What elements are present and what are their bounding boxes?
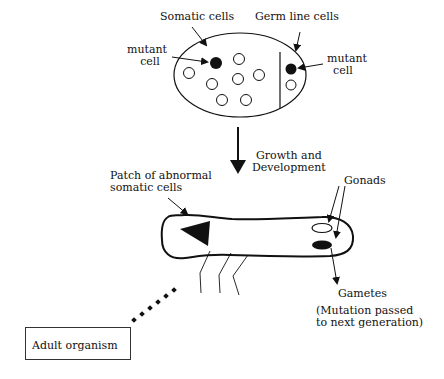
gametes-label: Gametes [338, 288, 387, 300]
abnormal-patch [180, 221, 210, 246]
embryo-ellipse [174, 33, 306, 117]
mutant-cell-left-label: mutant cell [127, 44, 167, 68]
gonads-arrow-1 [329, 186, 339, 221]
gonad-open [312, 224, 332, 233]
mutation-note-label: (Mutation passed to next generation) [316, 305, 423, 329]
germ-line-cells-label: Germ line cells [255, 11, 339, 23]
adult-organism-box: Adult organism [25, 327, 131, 360]
growth-development-label: Growth and Development [252, 150, 326, 174]
patch-label: Patch of abnormal somatic cells [110, 170, 212, 194]
gonads-arrow-2 [336, 186, 345, 237]
gametes-arrow [331, 248, 337, 283]
mutant-cell-right-label: mutant cell [327, 53, 367, 77]
somatic-cells-label: Somatic cells [160, 11, 234, 23]
germline-arrow [296, 32, 300, 50]
gonad-filled [312, 241, 332, 250]
adult-organism-label: Adult organism [32, 339, 118, 352]
mutant-germ-cell [286, 64, 297, 75]
mutant-somatic-cell [210, 57, 222, 69]
patch-arrow [168, 198, 187, 214]
mutant-right-arrow [299, 64, 323, 68]
organism-body [162, 215, 353, 295]
dotted-connector [131, 287, 177, 323]
gonads-label: Gonads [344, 175, 386, 187]
